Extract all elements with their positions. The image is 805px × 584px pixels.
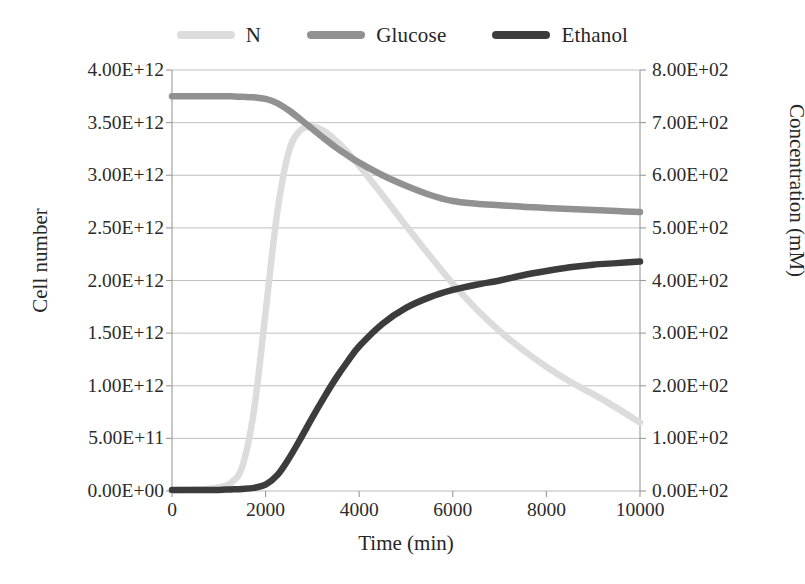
- y-tick-left-3: 1.50E+12: [34, 323, 164, 343]
- y-tick-left-6: 3.00E+12: [34, 165, 164, 185]
- plot-area: [172, 70, 640, 491]
- series-line-glucose: [172, 96, 640, 212]
- chart-figure: N Glucose Ethanol 0.00E+005.00E+111.00E+…: [0, 0, 805, 584]
- y-tick-left-5: 2.50E+12: [34, 218, 164, 238]
- y-tick-right-7: 7.00E+02: [652, 113, 792, 133]
- y-axis-left-title: Cell number: [30, 161, 51, 361]
- y-tick-right-1: 1.00E+02: [652, 428, 792, 448]
- y-axis-right-ticks: 0.00E+021.00E+022.00E+023.00E+024.00E+02…: [652, 70, 802, 491]
- y-tick-left-4: 2.00E+12: [34, 271, 164, 291]
- legend-item-n[interactable]: N: [177, 25, 261, 46]
- y-tick-right-2: 2.00E+02: [652, 376, 792, 396]
- y-tick-right-3: 3.00E+02: [652, 323, 792, 343]
- legend-item-ethanol[interactable]: Ethanol: [492, 25, 628, 46]
- y-tick-left-7: 3.50E+12: [34, 113, 164, 133]
- plot-canvas: [172, 70, 640, 491]
- x-tick-2: 4000: [340, 500, 379, 520]
- legend-label-n: N: [246, 25, 261, 46]
- legend-swatch-glucose: [307, 31, 365, 39]
- x-axis-ticks: 0200040006000800010000: [172, 500, 640, 526]
- gridlines: [172, 70, 640, 491]
- legend-label-glucose: Glucose: [376, 25, 446, 46]
- x-tick-5: 10000: [616, 500, 665, 520]
- legend-swatch-ethanol: [492, 31, 550, 39]
- legend-item-glucose[interactable]: Glucose: [307, 25, 446, 46]
- chart-legend: N Glucose Ethanol: [0, 18, 805, 52]
- y-tick-left-0: 0.00E+00: [34, 481, 164, 501]
- legend-swatch-n: [177, 31, 235, 39]
- x-tick-3: 6000: [433, 500, 472, 520]
- y-tick-left-8: 4.00E+12: [34, 60, 164, 80]
- y-tick-right-8: 8.00E+02: [652, 60, 792, 80]
- x-tick-0: 0: [167, 500, 177, 520]
- legend-label-ethanol: Ethanol: [561, 25, 628, 46]
- x-tick-1: 2000: [246, 500, 285, 520]
- y-tick-left-2: 1.00E+12: [34, 376, 164, 396]
- series-paths: [172, 96, 640, 490]
- y-tick-left-1: 5.00E+11: [34, 428, 164, 448]
- y-tick-right-6: 6.00E+02: [652, 165, 792, 185]
- x-axis-title: Time (min): [172, 533, 640, 554]
- tick-marks: [166, 70, 646, 497]
- y-tick-right-5: 5.00E+02: [652, 218, 792, 238]
- y-tick-right-4: 4.00E+02: [652, 271, 792, 291]
- y-tick-right-0: 0.00E+02: [652, 481, 792, 501]
- x-tick-4: 8000: [527, 500, 566, 520]
- y-axis-right-title: Concentration (mM): [786, 61, 805, 321]
